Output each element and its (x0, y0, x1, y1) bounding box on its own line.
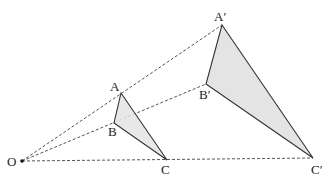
label-b: B (108, 124, 117, 139)
dilation-diagram: O A B C A′ B′ C′ (0, 0, 331, 182)
label-c-prime: C′ (311, 162, 323, 177)
label-c: C (161, 162, 170, 177)
label-a-prime: A′ (214, 9, 226, 24)
center-point-o (20, 159, 24, 163)
label-b-prime: B′ (199, 87, 211, 102)
ray-o-c-prime (22, 158, 313, 161)
triangle-abc (114, 93, 167, 160)
label-a: A (110, 79, 120, 94)
label-o: O (7, 154, 16, 169)
triangle-a-prime-b-prime-c-prime (206, 25, 313, 158)
ray-o-a-prime (22, 25, 222, 161)
